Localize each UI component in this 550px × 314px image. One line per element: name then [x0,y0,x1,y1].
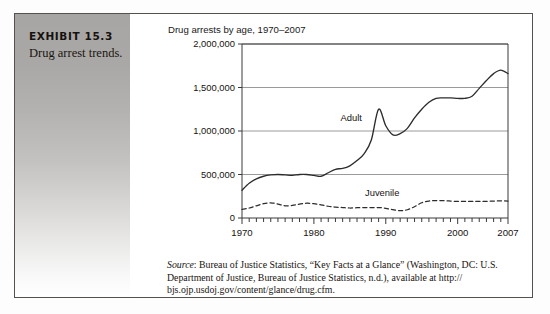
chart-container: Drug arrests by age, 1970–2007 0500,0001… [156,24,526,254]
exhibit-caption-panel: EXHIBIT 15.3 Drug arrest trends. [15,14,130,297]
y-axis-tick-label: 1,500,000 [193,82,235,93]
exhibit-figure: EXHIBIT 15.3 Drug arrest trends. Drug ar… [0,0,550,314]
exhibit-caption-text: EXHIBIT 15.3 Drug arrest trends. [29,30,125,62]
exhibit-number-title: EXHIBIT 15.3 [29,30,125,43]
source-text: : Bureau of Justice Statistics, “Key Fac… [167,259,498,295]
source-note: Source: Bureau of Justice Statistics, “K… [167,259,525,297]
y-axis-tick-label: 0 [230,212,235,223]
x-axis-tick-label: 1990 [375,227,396,238]
drug-arrests-line-chart: 0500,0001,000,0001,500,0002,000,00019701… [156,38,522,254]
y-axis-tick-label: 2,000,000 [193,38,235,49]
y-axis-tick-label: 500,000 [201,169,235,180]
series-line-juvenile [242,201,508,211]
series-label-adult: Adult [341,112,363,123]
exhibit-frame: EXHIBIT 15.3 Drug arrest trends. Drug ar… [14,13,533,298]
source-label: Source [167,259,194,270]
x-axis-tick-label: 1980 [303,227,324,238]
x-axis-tick-label: 2000 [447,227,468,238]
x-axis-tick-label: 1970 [231,227,252,238]
x-axis-tick-label: 2007 [497,227,518,238]
series-line-adult [242,70,508,190]
series-label-juvenile: Juvenile [365,187,399,198]
chart-title: Drug arrests by age, 1970–2007 [168,24,306,35]
exhibit-subtitle: Drug arrest trends. [29,46,125,62]
y-axis-tick-label: 1,000,000 [193,125,235,136]
